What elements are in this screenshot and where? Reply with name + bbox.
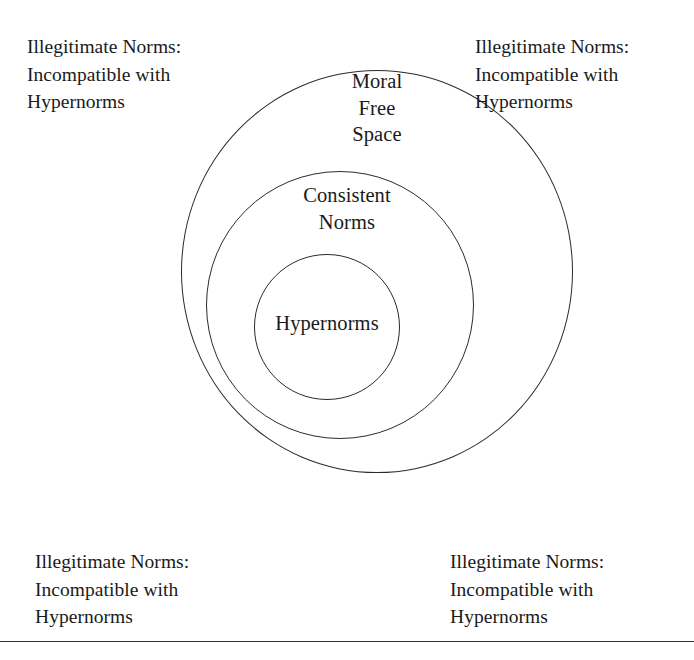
label-consistent-norms: Consistent Norms bbox=[257, 182, 437, 235]
label-hypernorms: Hypernorms bbox=[247, 310, 407, 337]
figure-container: Moral Free Space Consistent Norms Hypern… bbox=[0, 0, 694, 660]
label-moral-free-space-line-1: Moral bbox=[287, 68, 467, 95]
caption-top-left-line-2: Incompatible with bbox=[27, 61, 181, 89]
label-consistent-norms-line-2: Norms bbox=[257, 209, 437, 236]
caption-bottom-right-line-2: Incompatible with bbox=[450, 576, 604, 604]
bottom-divider-rule bbox=[0, 641, 694, 642]
label-hypernorms-line-1: Hypernorms bbox=[247, 310, 407, 337]
label-moral-free-space-line-3: Space bbox=[287, 121, 467, 148]
caption-bottom-right-line-3: Hypernorms bbox=[450, 603, 604, 631]
caption-bottom-right-line-1: Illegitimate Norms: bbox=[450, 548, 604, 576]
caption-top-right-line-3: Hypernorms bbox=[475, 88, 629, 116]
caption-top-right-line-1: Illegitimate Norms: bbox=[475, 33, 629, 61]
caption-top-left-line-1: Illegitimate Norms: bbox=[27, 33, 181, 61]
caption-top-right-line-2: Incompatible with bbox=[475, 61, 629, 89]
caption-illegitimate-norms-top-right: Illegitimate Norms: Incompatible with Hy… bbox=[475, 33, 629, 116]
label-moral-free-space-line-2: Free bbox=[287, 95, 467, 122]
caption-illegitimate-norms-top-left: Illegitimate Norms: Incompatible with Hy… bbox=[27, 33, 181, 116]
label-consistent-norms-line-1: Consistent bbox=[257, 182, 437, 209]
caption-bottom-left-line-3: Hypernorms bbox=[35, 603, 189, 631]
caption-top-left-line-3: Hypernorms bbox=[27, 88, 181, 116]
caption-bottom-left-line-2: Incompatible with bbox=[35, 576, 189, 604]
caption-illegitimate-norms-bottom-right: Illegitimate Norms: Incompatible with Hy… bbox=[450, 548, 604, 631]
caption-illegitimate-norms-bottom-left: Illegitimate Norms: Incompatible with Hy… bbox=[35, 548, 189, 631]
label-moral-free-space: Moral Free Space bbox=[287, 68, 467, 148]
caption-bottom-left-line-1: Illegitimate Norms: bbox=[35, 548, 189, 576]
